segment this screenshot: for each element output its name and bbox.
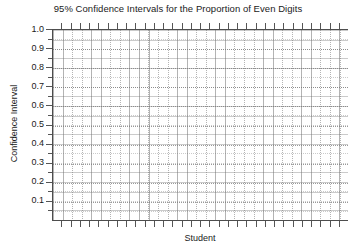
x-tick (339, 221, 340, 227)
x-tick (80, 23, 81, 29)
y-tick (46, 201, 52, 202)
y-tick (46, 125, 52, 126)
x-tick (89, 23, 90, 29)
y-tick-minor (48, 191, 52, 192)
x-tick (256, 221, 257, 227)
x-tick (274, 221, 275, 227)
x-tick (311, 221, 312, 227)
x-tick (61, 23, 62, 29)
x-tick (320, 221, 321, 227)
x-tick (228, 23, 229, 29)
x-tick (172, 23, 173, 29)
y-tick (46, 182, 52, 183)
x-tick (265, 221, 266, 227)
x-axis-ticks-top (52, 23, 348, 29)
x-tick (191, 221, 192, 227)
x-tick (293, 221, 294, 227)
x-tick (302, 221, 303, 227)
x-tick (293, 23, 294, 29)
y-tick-minor (48, 210, 52, 211)
x-tick (71, 221, 72, 227)
x-tick (209, 221, 210, 227)
chart-container: 95% Confidence Intervals for the Proport… (0, 0, 356, 248)
x-tick (237, 221, 238, 227)
x-tick (265, 23, 266, 29)
x-tick (145, 23, 146, 29)
y-tick-minor (48, 172, 52, 173)
x-tick (89, 221, 90, 227)
grid-line-horizontal (53, 87, 348, 88)
y-tick-minor (48, 134, 52, 135)
y-tick (46, 48, 52, 49)
y-tick (46, 29, 52, 30)
x-tick (339, 23, 340, 29)
y-tick-label: 0.1 (4, 196, 44, 205)
x-tick (200, 23, 201, 29)
x-tick (200, 221, 201, 227)
x-tick (209, 23, 210, 29)
x-tick (330, 23, 331, 29)
plot-area (52, 29, 348, 220)
x-tick (330, 221, 331, 227)
x-tick (71, 23, 72, 29)
x-tick (61, 221, 62, 227)
y-tick (46, 86, 52, 87)
x-tick (98, 221, 99, 227)
grid-line-horizontal (53, 164, 348, 165)
x-tick (80, 221, 81, 227)
grid-line-horizontal (53, 202, 348, 203)
chart-title: 95% Confidence Intervals for the Proport… (0, 3, 356, 15)
y-tick-minor (48, 153, 52, 154)
grid-line-horizontal (53, 68, 348, 69)
x-tick (117, 23, 118, 29)
x-tick (320, 23, 321, 29)
y-tick-minor (48, 115, 52, 116)
x-tick (191, 23, 192, 29)
grid-line-horizontal (53, 106, 348, 107)
x-tick (219, 221, 220, 227)
x-tick (283, 221, 284, 227)
x-tick (311, 23, 312, 29)
x-tick (126, 221, 127, 227)
x-tick (246, 23, 247, 29)
x-tick (126, 23, 127, 29)
x-tick (163, 221, 164, 227)
y-tick (46, 144, 52, 145)
x-axis-title: Student (52, 233, 348, 244)
y-tick-minor (48, 96, 52, 97)
x-tick (98, 23, 99, 29)
y-tick-label: 0.9 (4, 44, 44, 53)
y-tick (46, 105, 52, 106)
x-tick (145, 221, 146, 227)
y-tick-label: 1.0 (4, 25, 44, 34)
x-tick (246, 221, 247, 227)
x-tick (237, 23, 238, 29)
y-tick-minor (48, 77, 52, 78)
x-tick (135, 23, 136, 29)
x-tick (182, 221, 183, 227)
x-tick (154, 221, 155, 227)
grid-line-horizontal (53, 145, 348, 146)
grid-line-horizontal (53, 183, 348, 184)
x-tick (256, 23, 257, 29)
y-tick (46, 163, 52, 164)
x-tick (228, 221, 229, 227)
x-tick (108, 23, 109, 29)
x-tick (283, 23, 284, 29)
y-tick (46, 67, 52, 68)
x-tick (302, 23, 303, 29)
y-tick-minor (48, 58, 52, 59)
x-tick (163, 23, 164, 29)
y-tick-minor (48, 39, 52, 40)
y-axis-ticks (46, 29, 52, 220)
x-tick (219, 23, 220, 29)
x-tick (274, 23, 275, 29)
x-tick (135, 221, 136, 227)
x-tick (172, 221, 173, 227)
y-axis-title: Confidence Interval (9, 64, 20, 184)
grid-line-horizontal (53, 126, 348, 127)
x-tick (117, 221, 118, 227)
x-tick (108, 221, 109, 227)
x-axis-ticks-bottom (52, 221, 348, 227)
x-tick (154, 23, 155, 29)
